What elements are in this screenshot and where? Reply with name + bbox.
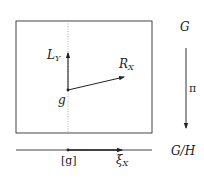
left-vector-label: LY bbox=[46, 48, 61, 63]
point-g-label: g bbox=[58, 93, 66, 107]
class-g-label: [g] bbox=[61, 154, 77, 167]
right-vector-arrow bbox=[68, 77, 124, 90]
induced-vector-label: ξX bbox=[116, 153, 129, 168]
group-box bbox=[16, 21, 152, 133]
quotient-label: G/H bbox=[171, 144, 196, 158]
class-g-dot bbox=[67, 149, 70, 152]
projection-label: π bbox=[189, 82, 196, 95]
group-label: G bbox=[180, 20, 190, 34]
point-g-dot bbox=[67, 89, 70, 92]
right-vector-label: RX bbox=[118, 57, 134, 72]
lie-group-diagram: LY RX g G π [g] ξX G/H bbox=[0, 0, 204, 187]
